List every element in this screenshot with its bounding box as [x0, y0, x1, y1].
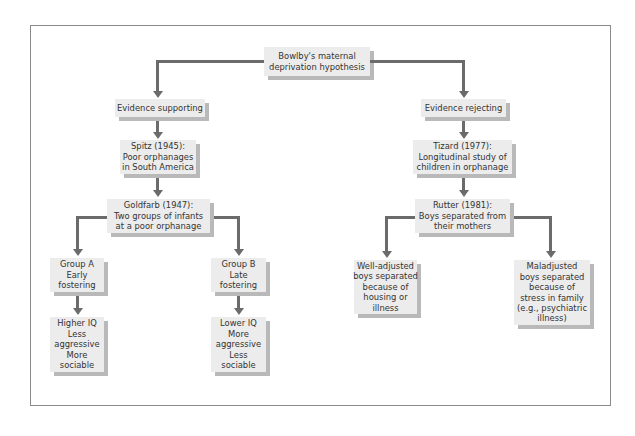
tizard-line-1: Tizard (1977):: [433, 141, 492, 151]
tizard-line-3: children in orphanage: [417, 162, 509, 172]
group-b-line-1: Group B: [222, 259, 256, 269]
arrow-down-icon: [153, 132, 163, 139]
group-b-outcome-line-4: Less: [229, 350, 247, 360]
group-a-outcome-box: Higher IQ Less aggressive More sociable: [50, 317, 104, 372]
root-box-bowlby-hypothesis: Bowlby's maternal deprivation hypothesis: [264, 47, 370, 76]
connector-to-supporting: [156, 60, 159, 92]
group-a-outcome-line-4: More: [67, 350, 88, 360]
spitz-line-2: Poor orphanages: [123, 152, 194, 162]
group-a-outcome-line-5: sociable: [60, 360, 94, 370]
connector-to-rejecting: [462, 60, 465, 92]
goldfarb-box: Goldfarb (1947): Two groups of infants a…: [107, 199, 210, 233]
rutter-line-1: Rutter (1981):: [433, 200, 492, 210]
maladjusted-line-5: (e.g., psychiatric: [517, 303, 587, 313]
rutter-box: Rutter (1981): Boys separated from their…: [415, 199, 510, 233]
spitz-line-3: in South America: [122, 162, 194, 172]
well-adjusted-line-4: housing or: [363, 292, 407, 302]
root-line-2: deprivation hypothesis: [269, 62, 365, 72]
maladjusted-line-1: Maladjusted: [527, 261, 578, 271]
well-adjusted-line-2: boys separated: [353, 271, 418, 281]
group-a-outcome-line-2: Less: [68, 329, 86, 339]
root-line-1: Bowlby's maternal: [278, 51, 355, 61]
goldfarb-line-3: at a poor orphanage: [116, 221, 202, 231]
evidence-supporting-box: Evidence supporting: [115, 99, 205, 117]
connector-rutter-right: [514, 216, 552, 219]
arrow-down-icon: [546, 251, 556, 258]
goldfarb-line-2: Two groups of infants: [114, 211, 203, 221]
evidence-rejecting-label: Evidence rejecting: [425, 103, 503, 113]
group-a-outcome-line-1: Higher IQ: [57, 318, 97, 328]
maladjusted-box: Maladjusted boys separated because of st…: [514, 260, 590, 325]
group-a-line-3: fostering: [58, 280, 95, 290]
rutter-line-2: Boys separated from: [419, 211, 506, 221]
tizard-line-2: Longitudinal study of: [418, 152, 506, 162]
arrow-down-icon: [382, 251, 392, 258]
goldfarb-line-1: Goldfarb (1947):: [124, 200, 193, 210]
group-b-outcome-box: Lower IQ More aggressive Less sociable: [211, 317, 266, 372]
connector-to-maladjusted: [549, 216, 552, 252]
group-b-outcome-line-3: aggressive: [216, 339, 261, 349]
group-b-outcome-line-5: sociable: [221, 360, 255, 370]
well-adjusted-box: Well-adjusted boys separated because of …: [354, 260, 417, 314]
arrow-down-icon: [234, 308, 244, 315]
connector-to-group-b: [237, 216, 240, 250]
arrow-down-icon: [459, 190, 469, 197]
connector-goldfarb-left: [76, 216, 107, 219]
spitz-box: Spitz (1945): Poor orphanages in South A…: [120, 140, 196, 174]
maladjusted-line-6: illness): [537, 313, 566, 323]
group-a-box: Group A Early fostering: [50, 258, 104, 292]
group-b-line-2: Late: [229, 270, 247, 280]
arrow-down-icon: [459, 91, 469, 98]
group-b-outcome-line-1: Lower IQ: [220, 318, 257, 328]
well-adjusted-line-3: because of: [363, 282, 409, 292]
group-a-line-1: Group A: [60, 259, 94, 269]
evidence-rejecting-box: Evidence rejecting: [421, 99, 506, 117]
arrow-down-icon: [234, 249, 244, 256]
arrow-down-icon: [153, 91, 163, 98]
rutter-line-3: their mothers: [434, 221, 491, 231]
group-b-box: Group B Late fostering: [211, 258, 266, 292]
connector-rutter-left: [385, 216, 415, 219]
arrow-down-icon: [73, 249, 83, 256]
connector-to-well-adjusted: [385, 216, 388, 252]
group-a-outcome-line-3: aggressive: [54, 339, 99, 349]
group-b-outcome-line-2: More: [228, 329, 249, 339]
well-adjusted-line-5: illness: [372, 303, 398, 313]
maladjusted-line-4: stress in family: [520, 293, 584, 303]
connector-root-right: [370, 60, 465, 63]
group-b-line-3: fostering: [220, 280, 257, 290]
arrow-down-icon: [73, 308, 83, 315]
connector-root-left: [156, 60, 264, 63]
spitz-line-1: Spitz (1945):: [131, 141, 185, 151]
arrow-down-icon: [153, 190, 163, 197]
group-a-line-2: Early: [66, 270, 87, 280]
maladjusted-line-3: because of: [529, 282, 575, 292]
evidence-supporting-label: Evidence supporting: [117, 103, 203, 113]
tizard-box: Tizard (1977): Longitudinal study of chi…: [413, 140, 512, 174]
maladjusted-line-2: boys separated: [520, 272, 585, 282]
arrow-down-icon: [459, 132, 469, 139]
connector-to-group-a: [76, 216, 79, 250]
well-adjusted-line-1: Well-adjusted: [357, 261, 414, 271]
